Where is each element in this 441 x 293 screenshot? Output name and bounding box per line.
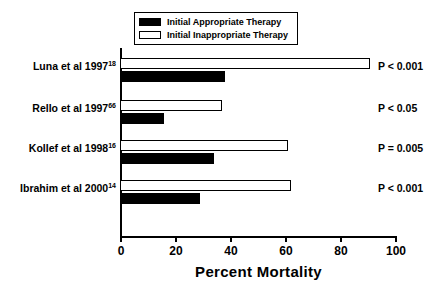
bar-appropriate-therapy — [120, 71, 225, 82]
legend-label-inappropriate: Initial Inappropriate Therapy — [167, 30, 288, 40]
bar-appropriate-therapy — [120, 193, 200, 204]
category-label: Kollef et al 199816 — [29, 142, 116, 154]
chart-legend: Initial Appropriate Therapy Initial Inap… — [134, 12, 298, 45]
category-label-text: Kollef et al 1998 — [29, 142, 108, 154]
legend-swatch-appropriate-icon — [139, 18, 161, 26]
x-tick-label-40: 40 — [224, 244, 237, 258]
x-axis-title: Percent Mortality — [120, 263, 397, 280]
x-tick-100 — [395, 236, 397, 242]
category-label-text: Luna et al 1997 — [33, 60, 108, 72]
category-label-superscript: 18 — [108, 60, 116, 67]
bar-inappropriate-therapy — [120, 140, 288, 151]
x-tick-60 — [285, 236, 287, 242]
category-label-text: Ibrahim et al 2000 — [20, 182, 108, 194]
bar-chart: Initial Appropriate Therapy Initial Inap… — [0, 0, 441, 293]
x-tick-40 — [230, 236, 232, 242]
p-value-annotation: P < 0.001 — [378, 60, 423, 72]
category-label-superscript: 66 — [108, 102, 116, 109]
x-tick-label-60: 60 — [279, 244, 292, 258]
x-axis-line — [120, 236, 397, 238]
bar-appropriate-therapy — [120, 153, 214, 164]
x-tick-20 — [175, 236, 177, 242]
x-tick-80 — [340, 236, 342, 242]
p-value-annotation: P < 0.001 — [378, 182, 423, 194]
category-label: Rello et al 199766 — [32, 102, 116, 114]
category-label: Ibrahim et al 200014 — [20, 182, 116, 194]
category-label-text: Rello et al 1997 — [32, 102, 108, 114]
bar-appropriate-therapy — [120, 113, 164, 124]
p-value-annotation: P < 0.05 — [378, 102, 417, 114]
x-tick-label-100: 100 — [386, 244, 406, 258]
legend-swatch-inappropriate-icon — [139, 31, 161, 39]
x-tick-label-80: 80 — [334, 244, 347, 258]
x-tick-label-0: 0 — [118, 244, 125, 258]
legend-item-inappropriate: Initial Inappropriate Therapy — [139, 29, 292, 41]
bar-inappropriate-therapy — [120, 180, 291, 191]
bar-inappropriate-therapy — [120, 58, 370, 69]
p-value-annotation: P = 0.005 — [378, 142, 423, 154]
category-label-superscript: 16 — [108, 142, 116, 149]
x-tick-0 — [120, 236, 122, 242]
category-label-superscript: 14 — [108, 182, 116, 189]
bar-inappropriate-therapy — [120, 100, 222, 111]
category-label: Luna et al 199718 — [33, 60, 116, 72]
legend-item-appropriate: Initial Appropriate Therapy — [139, 16, 292, 28]
legend-label-appropriate: Initial Appropriate Therapy — [167, 17, 281, 27]
x-tick-label-20: 20 — [169, 244, 182, 258]
